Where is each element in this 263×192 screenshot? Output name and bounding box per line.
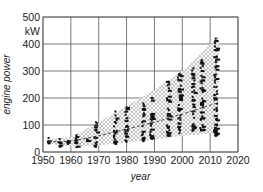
data-point [143, 104, 145, 106]
data-point [59, 138, 61, 140]
data-point [96, 137, 98, 139]
data-point [179, 119, 181, 121]
y-axis-unit: kW [25, 25, 40, 37]
y-tick-label: 300 [22, 65, 40, 77]
data-point [168, 87, 170, 89]
data-point [193, 104, 195, 106]
data-point [125, 117, 127, 119]
data-point [125, 114, 127, 116]
data-point [114, 111, 116, 113]
data-point [115, 122, 117, 124]
data-point [96, 122, 98, 124]
data-point [202, 100, 206, 102]
data-point [167, 132, 171, 134]
data-point [177, 126, 181, 128]
data-point [193, 110, 195, 112]
data-point [144, 131, 146, 133]
data-point [179, 132, 181, 134]
data-point [177, 77, 179, 79]
data-point [125, 120, 129, 122]
data-point [168, 90, 172, 92]
x-tick-label: 2020 [226, 154, 250, 166]
data-point [193, 80, 195, 82]
data-point [214, 79, 216, 81]
data-point [193, 73, 195, 75]
data-point [216, 124, 218, 126]
data-point [179, 99, 183, 101]
data-point [192, 123, 194, 125]
data-point [215, 66, 217, 68]
data-point [214, 49, 216, 51]
data-point [94, 127, 98, 129]
data-point [151, 100, 155, 102]
data-point [180, 94, 184, 96]
data-point [192, 67, 194, 69]
data-point [49, 142, 51, 144]
data-point [214, 115, 218, 117]
data-point [150, 135, 154, 137]
data-point [178, 89, 180, 91]
y-axis-title: engine power [1, 54, 12, 115]
data-point [178, 74, 182, 76]
data-point [216, 108, 218, 110]
x-tick-label: 1970 [87, 154, 111, 166]
data-point [192, 96, 194, 98]
data-point [192, 113, 194, 115]
data-point [59, 142, 63, 144]
data-point [216, 86, 218, 88]
data-point [180, 91, 182, 93]
data-point [125, 126, 129, 128]
data-point [142, 102, 144, 104]
data-point [96, 131, 100, 133]
data-point [126, 108, 130, 110]
data-point [192, 129, 194, 131]
data-point [113, 125, 115, 127]
data-point [216, 59, 220, 61]
data-point [150, 113, 152, 115]
data-point [191, 70, 193, 72]
data-point [94, 125, 98, 127]
y-tick-label: 400 [22, 38, 40, 50]
data-point [177, 79, 181, 81]
data-point [214, 76, 216, 78]
data-point [142, 137, 144, 139]
data-point [214, 82, 216, 84]
data-point [87, 140, 91, 142]
data-point [177, 123, 181, 125]
data-point [214, 129, 216, 131]
x-axis-title: year [130, 171, 151, 182]
data-point [150, 115, 152, 117]
data-point [201, 117, 205, 119]
data-point [166, 135, 168, 137]
data-point [125, 136, 129, 138]
y-tick-label: 100 [22, 119, 40, 131]
data-point [201, 63, 205, 65]
data-point [127, 130, 129, 132]
data-point [180, 85, 182, 87]
data-point [201, 79, 205, 81]
data-point [96, 143, 98, 145]
data-point [201, 70, 205, 72]
data-point [193, 86, 195, 88]
data-point [191, 83, 195, 85]
data-point [76, 142, 78, 144]
x-tick-label: 2000 [171, 154, 195, 166]
data-point [168, 109, 170, 111]
data-point [194, 106, 196, 108]
data-point [199, 127, 201, 129]
y-tick-label: 500 [22, 11, 40, 23]
data-point [75, 134, 77, 136]
data-point [214, 127, 216, 129]
data-point [201, 60, 203, 62]
data-point [167, 113, 169, 115]
data-point [201, 98, 203, 100]
data-point [150, 131, 152, 133]
data-point [200, 67, 202, 69]
y-tick-label: 0 [34, 146, 40, 158]
data-point [75, 136, 79, 138]
data-point [48, 137, 50, 139]
data-point [201, 115, 203, 117]
data-point [201, 82, 203, 84]
data-point [168, 129, 170, 131]
data-point [216, 93, 218, 95]
